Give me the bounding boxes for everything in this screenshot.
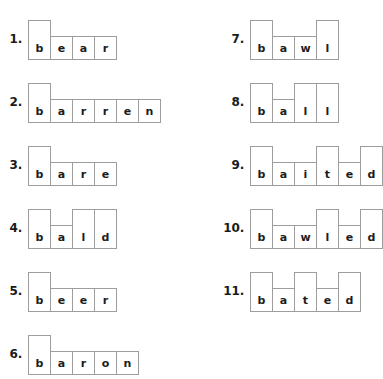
letter-box[interactable]: l: [316, 83, 339, 123]
letter-box[interactable]: a: [50, 162, 73, 186]
letter-box[interactable]: n: [116, 351, 139, 375]
right-column: 7.bawl8.ball9.baited10.bawled11.bated: [192, 0, 383, 349]
letter-box[interactable]: e: [338, 162, 361, 186]
letter-box[interactable]: r: [72, 162, 95, 186]
letter-box[interactable]: a: [272, 36, 295, 60]
letter-glyph: l: [82, 232, 86, 248]
letter-box[interactable]: a: [272, 162, 295, 186]
letter-glyph: e: [102, 169, 109, 185]
letter-box[interactable]: b: [28, 146, 51, 186]
letter-box[interactable]: b: [28, 20, 51, 60]
word-shape-beer: beer: [28, 262, 117, 312]
letter-glyph: b: [258, 295, 266, 311]
letter-box[interactable]: e: [338, 225, 361, 249]
letter-box[interactable]: r: [94, 99, 117, 123]
letter-box[interactable]: e: [116, 99, 139, 123]
letter-box[interactable]: b: [250, 20, 273, 60]
letter-glyph: w: [300, 43, 310, 59]
letter-box[interactable]: b: [250, 272, 273, 312]
word-shape-baited: baited: [250, 136, 383, 186]
letter-glyph: a: [280, 169, 287, 185]
letter-box[interactable]: d: [360, 146, 383, 186]
letter-box[interactable]: a: [50, 351, 73, 375]
letter-box[interactable]: e: [72, 288, 95, 312]
letter-glyph: b: [36, 106, 44, 122]
letter-glyph: a: [58, 232, 65, 248]
letter-box[interactable]: l: [72, 209, 95, 249]
letter-glyph: a: [80, 43, 87, 59]
word-item-bare: 3.bare: [0, 136, 192, 199]
letter-box[interactable]: b: [28, 209, 51, 249]
letter-glyph: a: [280, 106, 287, 122]
letter-box[interactable]: a: [272, 99, 295, 123]
letter-glyph: n: [124, 358, 132, 374]
letter-glyph: b: [258, 106, 266, 122]
letter-box[interactable]: w: [294, 36, 317, 60]
letter-box[interactable]: n: [138, 99, 161, 123]
word-shape-barren: barren: [28, 73, 161, 123]
letter-box[interactable]: d: [94, 209, 117, 249]
item-number: 3.: [0, 158, 22, 172]
letter-glyph: l: [304, 106, 308, 122]
letter-glyph: l: [326, 43, 330, 59]
letter-glyph: d: [368, 169, 376, 185]
letter-box[interactable]: l: [316, 209, 339, 249]
letter-glyph: b: [36, 232, 44, 248]
letter-box[interactable]: o: [94, 351, 117, 375]
letter-box[interactable]: r: [94, 36, 117, 60]
letter-box[interactable]: l: [294, 83, 317, 123]
word-item-baited: 9.baited: [192, 136, 383, 199]
letter-box[interactable]: a: [72, 36, 95, 60]
letter-glyph: b: [258, 43, 266, 59]
word-item-barren: 2.barren: [0, 73, 192, 136]
letter-box[interactable]: b: [250, 146, 273, 186]
letter-glyph: a: [58, 169, 65, 185]
letter-glyph: e: [58, 295, 65, 311]
word-shape-bawled: bawled: [250, 199, 383, 249]
letter-box[interactable]: r: [72, 99, 95, 123]
letter-box[interactable]: b: [28, 335, 51, 375]
item-number: 4.: [0, 221, 22, 235]
letter-box[interactable]: a: [50, 225, 73, 249]
letter-glyph: e: [346, 232, 353, 248]
letter-glyph: r: [81, 106, 86, 122]
letter-box[interactable]: t: [294, 272, 317, 312]
letter-glyph: e: [124, 106, 131, 122]
word-item-baron: 6.baron: [0, 325, 192, 379]
letter-glyph: e: [80, 295, 87, 311]
word-item-ball: 8.ball: [192, 73, 383, 136]
letter-box[interactable]: r: [72, 351, 95, 375]
item-number: 10.: [220, 221, 244, 235]
word-shape-bear: bear: [28, 10, 117, 60]
letter-box[interactable]: b: [28, 83, 51, 123]
item-number: 6.: [0, 347, 22, 361]
letter-box[interactable]: t: [316, 146, 339, 186]
letter-glyph: e: [324, 295, 331, 311]
letter-box[interactable]: e: [316, 288, 339, 312]
letter-box[interactable]: b: [250, 83, 273, 123]
letter-box[interactable]: e: [50, 36, 73, 60]
letter-box[interactable]: a: [272, 225, 295, 249]
letter-glyph: t: [325, 169, 330, 185]
letter-glyph: d: [346, 295, 354, 311]
letter-box[interactable]: w: [294, 225, 317, 249]
item-number: 7.: [220, 32, 244, 46]
letter-box[interactable]: d: [338, 272, 361, 312]
letter-box[interactable]: l: [316, 20, 339, 60]
letter-glyph: t: [303, 295, 308, 311]
letter-box[interactable]: b: [28, 272, 51, 312]
word-shape-bare: bare: [28, 136, 117, 186]
letter-box[interactable]: e: [94, 162, 117, 186]
letter-glyph: r: [81, 169, 86, 185]
letter-box[interactable]: b: [250, 209, 273, 249]
letter-box[interactable]: i: [294, 162, 317, 186]
letter-box[interactable]: e: [50, 288, 73, 312]
letter-box[interactable]: d: [360, 209, 383, 249]
letter-box[interactable]: r: [94, 288, 117, 312]
letter-box[interactable]: a: [272, 288, 295, 312]
letter-glyph: a: [58, 106, 65, 122]
letter-box[interactable]: a: [50, 99, 73, 123]
letter-glyph: a: [58, 358, 65, 374]
word-item-bated: 11.bated: [192, 262, 383, 325]
letter-glyph: o: [102, 358, 110, 374]
